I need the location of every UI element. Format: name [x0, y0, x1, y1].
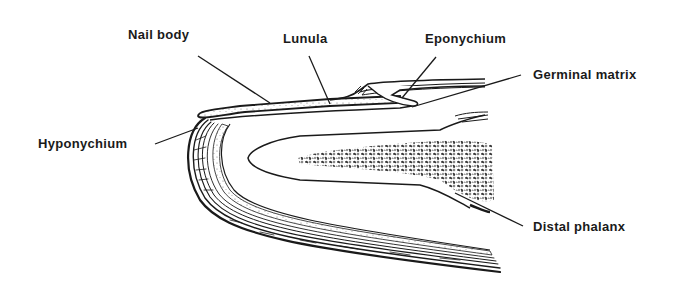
nail-anatomy-diagram: Nail body Lunula Eponychium Germinal mat… [0, 0, 694, 285]
bone-marrow [298, 141, 494, 202]
nail-plate [198, 96, 400, 118]
label-distal-phalanx: Distal phalanx [533, 219, 625, 234]
leader-nail-body [198, 56, 270, 103]
label-hyponychium: Hyponychium [38, 136, 127, 151]
leader-eponychium [402, 57, 436, 98]
label-germinal-matrix: Germinal matrix [533, 67, 637, 82]
label-nail-body: Nail body [128, 27, 189, 42]
label-eponychium: Eponychium [425, 31, 506, 46]
label-lunula: Lunula [283, 31, 327, 46]
leader-lunula [309, 56, 330, 104]
leader-lines [155, 56, 523, 226]
